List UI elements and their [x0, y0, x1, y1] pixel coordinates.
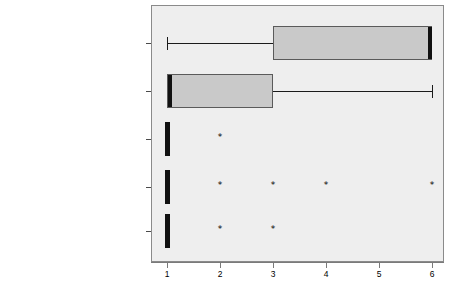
x-axis-tick-label: 2 [212, 269, 228, 279]
whisker-low [167, 43, 273, 44]
outlier-marker: * [429, 181, 436, 190]
whisker-cap-high [432, 85, 433, 98]
whisker-cap-low [167, 37, 168, 50]
x-axis-tick-label: 3 [265, 269, 281, 279]
x-axis-tick-label: 4 [318, 269, 334, 279]
box [167, 74, 273, 108]
category-tick-0 [146, 43, 151, 44]
x-axis-tick [432, 263, 433, 268]
outlier-marker: * [323, 181, 330, 190]
category-tick-4 [146, 231, 151, 232]
outlier-marker: * [270, 225, 277, 234]
outlier-marker: * [217, 181, 224, 190]
collapsed-box-bar [165, 122, 170, 156]
x-axis-tick-label: 5 [371, 269, 387, 279]
category-tick-3 [146, 187, 151, 188]
category-tick-2 [146, 139, 151, 140]
box [273, 26, 432, 60]
x-axis-tick [379, 263, 380, 268]
x-axis-tick-label: 6 [424, 269, 440, 279]
whisker-high [273, 91, 432, 92]
outlier-marker: * [217, 225, 224, 234]
x-axis-tick [167, 263, 168, 268]
x-axis-tick [326, 263, 327, 268]
x-axis-tick [220, 263, 221, 268]
x-axis-tick [273, 263, 274, 268]
x-axis-line [151, 262, 444, 263]
median-bar [428, 27, 432, 59]
category-tick-1 [146, 91, 151, 92]
outlier-marker: * [217, 133, 224, 142]
median-bar [168, 75, 172, 107]
boxplot-chart: The tumour is part of my body. The tumou… [0, 0, 456, 295]
collapsed-box-bar [165, 214, 170, 248]
x-axis-tick-label: 1 [159, 269, 175, 279]
collapsed-box-bar [165, 170, 170, 204]
outlier-marker: * [270, 181, 277, 190]
